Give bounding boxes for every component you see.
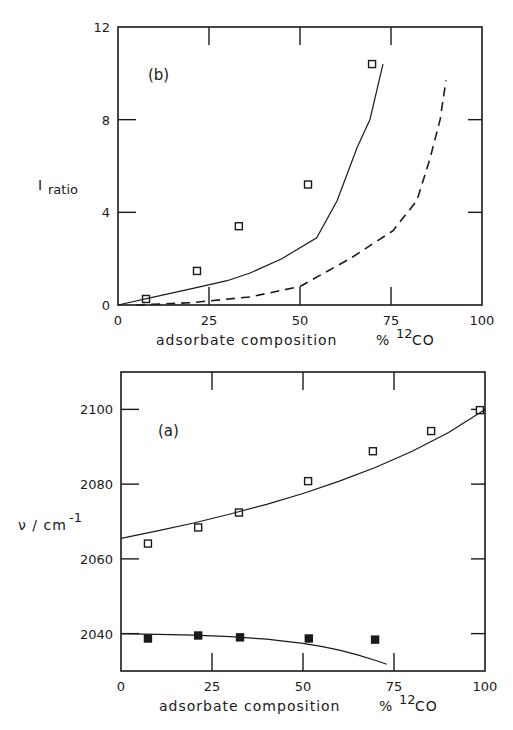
filled-square-marker — [144, 635, 151, 642]
x-axis-unit-co: CO — [412, 332, 435, 348]
panel-label-a: (a) — [158, 422, 179, 440]
x-tick-label: 0 — [114, 313, 122, 328]
x-axis-label: adsorbate composition — [159, 698, 340, 714]
x-tick-label: 0 — [117, 679, 125, 694]
x-tick-label: 25 — [204, 679, 221, 694]
x-axis-unit-co: CO — [415, 698, 438, 714]
y-axis-label-a-superscript: -1 — [69, 510, 82, 525]
y-axis-label-b-subscript: ratio — [48, 182, 78, 197]
y-tick-label: 2040 — [80, 627, 113, 642]
x-tick-label: 100 — [470, 313, 495, 328]
panel-label-b: (b) — [148, 66, 169, 84]
y-tick-label: 2100 — [80, 402, 113, 417]
y-axis-label-b: I — [38, 177, 43, 193]
open-square-marker — [369, 448, 376, 455]
open-square-marker — [195, 524, 202, 531]
panel-a: 02550751002040206020802100adsorbate comp… — [80, 372, 498, 714]
open-square-marker — [193, 267, 200, 274]
plot-frame — [121, 372, 485, 671]
figure: 025507510004812adsorbate composition%12C… — [0, 0, 513, 730]
filled-square-marker — [372, 636, 379, 643]
x-axis-label: adsorbate composition — [156, 332, 337, 348]
x-axis-unit-superscript: 12 — [399, 692, 416, 707]
x-axis-unit-superscript: 12 — [396, 326, 413, 341]
open-square-marker — [428, 428, 435, 435]
x-tick-label: 50 — [295, 679, 312, 694]
y-tick-label: 2080 — [80, 477, 113, 492]
curve-solid-line — [118, 64, 383, 305]
y-tick-label: 0 — [102, 298, 110, 313]
x-tick-label: 100 — [473, 679, 498, 694]
open-square-marker — [144, 540, 151, 547]
x-axis-unit-percent: % — [379, 698, 393, 714]
y-axis-label-a: ν / cm — [18, 517, 67, 533]
x-tick-label: 50 — [292, 313, 309, 328]
open-square-marker — [305, 181, 312, 188]
open-square-marker — [305, 478, 312, 485]
y-tick-label: 12 — [93, 20, 110, 35]
filled-square-marker — [305, 635, 312, 642]
y-tick-label: 2060 — [80, 552, 113, 567]
x-axis-unit-percent: % — [376, 332, 390, 348]
y-tick-label: 8 — [102, 113, 110, 128]
curve-dashed-line — [136, 80, 446, 305]
curve-solid-line — [121, 634, 387, 665]
open-square-marker — [369, 61, 376, 68]
open-square-marker — [235, 223, 242, 230]
x-tick-label: 25 — [201, 313, 218, 328]
y-tick-label: 4 — [102, 205, 110, 220]
